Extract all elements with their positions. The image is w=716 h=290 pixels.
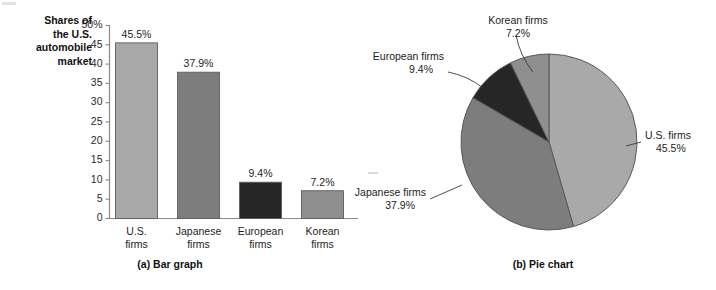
y-axis-title-line-1: Shares of [0, 14, 92, 28]
bar-us [116, 43, 158, 219]
y-tick-label: 10 [91, 173, 103, 185]
pie-label-japanese-name: Japanese firms [355, 186, 426, 198]
bar-value-label: 9.4% [249, 167, 273, 179]
leader-line-japanese [430, 185, 462, 199]
bar-value-label: 37.9% [184, 57, 214, 69]
category-label-line-2: firms [125, 238, 148, 250]
y-axis-title-line-4: market [0, 55, 92, 69]
category-label-line-1: Japanese [176, 225, 222, 237]
pie-label-european-value: 9.4% [409, 63, 433, 75]
category-label-line-2: firms [187, 238, 210, 250]
pie-label-korean-value: 7.2% [506, 27, 530, 39]
y-tick-label: 25 [91, 115, 103, 127]
bar-japanese [178, 72, 220, 218]
pie-label-us-name: U.S. firms [645, 129, 691, 141]
pie-label-european-name: European firms [373, 50, 444, 62]
bar-value-label: 7.2% [311, 176, 335, 188]
bar-value-label: 45.5% [122, 28, 152, 40]
y-tick-label: 15 [91, 153, 103, 165]
y-axis-title: Shares of the U.S. automobile market [0, 14, 92, 68]
figure-two-charts: Shares of the U.S. automobile market 051… [0, 0, 716, 290]
category-label-line-1: European [238, 225, 284, 237]
category-label-line-2: firms [249, 238, 272, 250]
leader-line-european [448, 72, 483, 88]
bar-graph-caption: (a) Bar graph [0, 258, 340, 270]
pie-label-korean-name: Korean firms [488, 14, 548, 26]
category-label-line-1: Korean [306, 225, 340, 237]
pie-label-japanese-value: 37.9% [385, 199, 415, 211]
y-axis-title-line-2: the U.S. [0, 28, 92, 42]
category-label-line-1: U.S. [126, 225, 146, 237]
pie-chart-caption: (b) Pie chart [370, 258, 716, 270]
pie-label-us-value: 45.5% [656, 142, 686, 154]
y-tick-label: 5 [97, 192, 103, 204]
y-tick-label: 45 [91, 38, 103, 50]
pie-chart-panel: U.S. firms45.5%Japanese firms37.9%Europe… [370, 0, 716, 290]
y-tick-label: 30 [91, 95, 103, 107]
y-tick-label: 40 [91, 57, 103, 69]
y-tick-label: 35 [91, 76, 103, 88]
bar-series [116, 43, 344, 219]
pie-slices [461, 54, 637, 230]
bar-european [240, 182, 282, 218]
y-tick-label: 20 [91, 134, 103, 146]
x-axis-category-labels: U.S.firmsJapanesefirmsEuropeanfirmsKorea… [125, 225, 339, 250]
pie-chart-svg: U.S. firms45.5%Japanese firms37.9%Europe… [370, 0, 716, 258]
y-tick-label: 0 [97, 211, 103, 223]
bar-graph-panel: Shares of the U.S. automobile market 051… [0, 0, 370, 290]
category-label-line-2: firms [311, 238, 334, 250]
y-axis-title-line-3: automobile [0, 41, 92, 55]
bar-korean [302, 191, 344, 219]
